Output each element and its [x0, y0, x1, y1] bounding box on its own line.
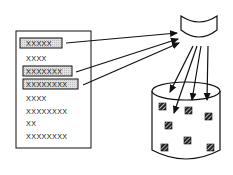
- list-item: XXXX: [26, 54, 47, 63]
- stored-item: [207, 144, 214, 151]
- list-item: XXXXX: [26, 39, 52, 48]
- stored-item: [185, 107, 192, 114]
- stored-item: [184, 137, 191, 144]
- bowl-icon: [181, 16, 217, 37]
- list-item: XX: [26, 119, 36, 128]
- stored-item: [165, 122, 172, 129]
- list-item: XXXXXXX: [26, 67, 62, 76]
- list-panel: XXXXX XXXX XXXXXXX XXXXXXXX XXXX XXXXXXX…: [16, 31, 91, 148]
- stored-item: [161, 144, 168, 151]
- list-item: XXXXXXXX: [26, 80, 68, 89]
- list-item: XXXXXXXX: [26, 107, 68, 116]
- list-item: XXXX: [26, 94, 47, 103]
- stored-item: [159, 103, 166, 110]
- diagram-canvas: XXXXX XXXX XXXXXXX XXXXXXXX XXXX XXXXXXX…: [0, 0, 233, 175]
- stored-item: [205, 113, 212, 120]
- list-item: XXXXXXXX: [26, 132, 68, 141]
